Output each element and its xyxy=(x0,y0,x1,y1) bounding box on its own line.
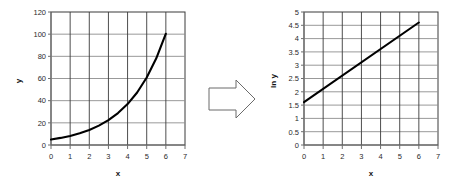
x-tick-label: 4 xyxy=(125,152,129,161)
chart-log-linear: 01234567 00.511.522.533.544.55 x ln y xyxy=(269,8,440,178)
y-tick-labels-right: 00.511.522.533.544.55 xyxy=(289,8,299,150)
y-tick-label: 0 xyxy=(42,141,46,150)
transformation-figure: 01234567 020406080100120 x y 01234567 00… xyxy=(0,0,464,192)
y-tick-label: 2 xyxy=(295,88,299,97)
x-tick-label: 5 xyxy=(398,152,402,161)
y-tick-label: 2.5 xyxy=(289,74,299,83)
y-tick-label: 4.5 xyxy=(289,21,299,30)
x-tick-labels-left: 01234567 xyxy=(49,152,187,161)
y-tick-label: 20 xyxy=(38,119,46,128)
y-tick-label: 40 xyxy=(38,96,46,105)
x-tick-label: 6 xyxy=(164,152,168,161)
x-tick-labels-right: 01234567 xyxy=(302,152,440,161)
y-tick-label: 3 xyxy=(295,61,299,70)
x-tick-label: 3 xyxy=(359,152,363,161)
y-tick-label: 5 xyxy=(295,8,299,17)
y-tick-label: 80 xyxy=(38,52,46,61)
y-tick-label: 120 xyxy=(33,8,46,17)
x-tick-label: 2 xyxy=(340,152,344,161)
y-tick-label: 3.5 xyxy=(289,48,299,57)
y-tick-label: 60 xyxy=(38,74,46,83)
x-tick-label: 4 xyxy=(378,152,382,161)
y-axis-title-left: y xyxy=(14,78,23,83)
arrow-right-icon xyxy=(209,80,255,118)
x-tick-label: 6 xyxy=(417,152,421,161)
y-tick-labels-left: 020406080100120 xyxy=(33,8,46,150)
x-tick-label: 3 xyxy=(106,152,110,161)
x-tick-label: 2 xyxy=(87,152,91,161)
y-axis-title-right: ln y xyxy=(269,74,278,88)
x-tick-label: 1 xyxy=(321,152,325,161)
y-tick-label: 1.5 xyxy=(289,101,299,110)
y-tick-label: 1 xyxy=(295,114,299,123)
x-tick-marks-left xyxy=(51,145,185,149)
y-tick-label: 4 xyxy=(295,34,299,43)
y-tick-label: 100 xyxy=(33,30,46,39)
y-tick-label: 0.5 xyxy=(289,128,299,137)
y-tick-label: 0 xyxy=(295,141,299,150)
x-tick-label: 7 xyxy=(436,152,440,161)
x-tick-label: 5 xyxy=(145,152,149,161)
transformation-arrow xyxy=(209,80,255,118)
x-tick-label: 7 xyxy=(183,152,187,161)
x-axis-title-left: x xyxy=(116,169,121,178)
x-tick-label: 0 xyxy=(302,152,306,161)
x-tick-marks-right xyxy=(304,145,438,149)
chart-exponential: 01234567 020406080100120 x y xyxy=(14,8,187,178)
x-tick-label: 0 xyxy=(49,152,53,161)
x-tick-label: 1 xyxy=(68,152,72,161)
x-axis-title-right: x xyxy=(369,169,374,178)
